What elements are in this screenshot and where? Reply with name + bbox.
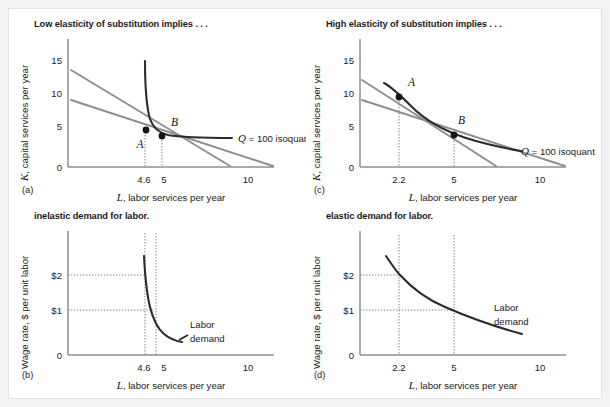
panel-a-ytick-5: 5 [57,121,62,132]
panel-b-ytick-1: $1 [51,305,62,316]
panel-a-ytick-0: 0 [57,162,62,173]
panel-a-xtick-5: 5 [161,174,166,185]
panel-d-xtick-10: 10 [535,362,546,373]
panel-c-point-b-dot [451,132,458,139]
panel-a-ytick-15: 15 [51,55,62,66]
panel-d-xlabel: L, labor services per year [408,379,518,391]
panel-a-point-a-dot [143,127,150,134]
panel-d-curve-label-line2: demand [494,316,529,327]
panel-a-point-b-dot [159,133,166,140]
panel-a-title: Low elasticity of substitution implies .… [34,19,208,29]
panel-b: inelastic demand for labor. Wage rate, $… [16,207,306,393]
panel-c-ytick-5: 5 [349,121,354,132]
panel-d-title: elastic demand for labor. [326,211,433,221]
panel-c-ylabel: K, capital services per year [310,64,322,182]
panel-c-point-b-label: B [458,114,465,126]
panel-a-isoquant [145,61,232,138]
panel-d-plot: Wage rate, $ per unit labor 0 $1 $2 2.2 … [308,223,598,393]
panel-c-title: High elasticity of substitution implies … [326,19,502,29]
panel-c-ytick-0: 0 [349,162,354,173]
panel-d-curve-label-line1: Labor [494,302,519,313]
panel-b-xtick-4.6: 4.6 [137,362,150,373]
panel-a-ylabel: K, capital services per year [18,64,30,182]
figure-sheet: Low elasticity of substitution implies .… [9,9,601,398]
panel-c-plot: K, capital services per year 0 5 10 15 2… [308,31,598,205]
panel-d-xtick-2.2: 2.2 [392,362,405,373]
panel-a-ytick-10: 10 [51,88,62,99]
panel-d-ytick-2: $2 [343,270,354,281]
panel-b-xtick-5: 5 [161,362,166,373]
panel-a-xtick-10: 10 [243,174,254,185]
panel-a-tag: (a) [22,185,33,195]
panel-a: Low elasticity of substitution implies .… [16,19,306,205]
panel-c-point-a-dot [396,94,403,101]
panel-c-isocost-steep [362,80,496,166]
panel-c-xtick-5: 5 [451,174,456,185]
panel-b-ylabel: Wage rate, $ per unit labor [19,255,30,369]
panel-c-ytick-15: 15 [343,55,354,66]
panel-c-point-a-label: A [407,76,416,88]
panel-a-xlabel: L, labor services per year [116,191,226,203]
panel-c-isoquant [384,83,521,151]
panel-d-ylabel: Wage rate, $ per unit labor [311,255,322,369]
panel-d-ytick-0: 0 [349,350,354,361]
panel-a-isoquant-label: Q = 100 isoquant [238,132,306,144]
panel-c-ytick-10: 10 [343,88,354,99]
panel-d-xtick-5: 5 [451,362,456,373]
panel-b-tag: (b) [22,370,33,380]
panel-c-tag: (c) [314,185,325,195]
panel-d-ytick-1: $1 [343,305,354,316]
panel-b-ytick-2: $2 [51,270,62,281]
panel-d: elastic demand for labor. Wage rate, $ p… [308,207,598,393]
panel-b-xtick-10: 10 [243,362,254,373]
panel-c: High elasticity of substitution implies … [308,19,598,205]
panel-b-title: inelastic demand for labor. [34,211,149,221]
panel-a-point-b-label: B [171,116,178,128]
panel-a-xtick-4.6: 4.6 [137,174,150,185]
panel-b-xlabel: L, labor services per year [116,379,226,391]
panel-b-curve-label-line2: demand [190,333,225,344]
panel-b-curve-label-line1: Labor [190,319,215,330]
panel-a-point-a-label: A [135,138,144,150]
panel-d-tag: (d) [314,370,325,380]
panel-c-xtick-10: 10 [535,174,546,185]
panel-b-demand-curve [144,256,182,342]
panel-b-plot: Wage rate, $ per unit labor 0 $1 $2 4.6 … [16,223,306,393]
panel-b-ytick-0: 0 [57,350,62,361]
figure-page: Low elasticity of substitution implies .… [0,0,610,407]
panel-b-label-leader [179,335,188,340]
panel-c-xlabel: L, labor services per year [408,191,518,203]
panel-c-isoquant-label: Q = 100 isoquant [521,145,595,157]
panel-c-xtick-2.2: 2.2 [392,174,405,185]
panel-a-plot: K, capital services per year 0 5 10 15 4… [16,31,306,205]
